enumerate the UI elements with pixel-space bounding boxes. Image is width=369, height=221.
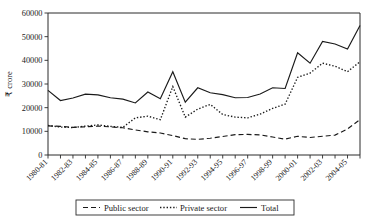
x-tick-label: 1990-91 bbox=[149, 158, 174, 183]
x-tick-label: 1984-85 bbox=[74, 158, 99, 183]
series-line-public-sector bbox=[48, 120, 360, 140]
chart-container: 0100002000030000400005000060000 1980-811… bbox=[0, 0, 369, 221]
y-axis-title: ₹ crore bbox=[4, 71, 14, 97]
x-tick-label: 1994-95 bbox=[199, 158, 224, 183]
x-tick-label: 1980-81 bbox=[24, 158, 49, 183]
y-tick-label: 30000 bbox=[22, 80, 43, 89]
x-tick-label: 2002-03 bbox=[299, 158, 324, 183]
series-line-total bbox=[48, 26, 360, 103]
line-chart: 0100002000030000400005000060000 1980-811… bbox=[0, 0, 369, 221]
legend-label: Private sector bbox=[180, 203, 227, 213]
x-axis: 1980-811982-831984-851986-871988-891990-… bbox=[24, 155, 360, 183]
x-tick-label: 2004-05 bbox=[324, 158, 349, 183]
x-tick-label: 1992-93 bbox=[174, 158, 199, 183]
x-tick-label: 2000-01 bbox=[274, 158, 299, 183]
chart-legend[interactable]: Public sectorPrivate sectorTotal bbox=[76, 200, 294, 215]
x-tick-label: 1982-83 bbox=[49, 158, 74, 183]
series-lines bbox=[48, 26, 360, 140]
x-tick-label: 1996-97 bbox=[224, 158, 249, 183]
legend-label: Public sector bbox=[104, 203, 149, 213]
plot-frame bbox=[48, 13, 360, 155]
x-tick-label: 1988-89 bbox=[124, 158, 149, 183]
y-tick-label: 60000 bbox=[22, 9, 43, 18]
x-tick-label: 1998-99 bbox=[249, 158, 274, 183]
y-axis: 0100002000030000400005000060000 bbox=[22, 9, 48, 160]
y-axis-title-text: ₹ crore bbox=[4, 71, 14, 97]
y-tick-label: 50000 bbox=[22, 33, 43, 42]
x-tick-label: 1986-87 bbox=[99, 158, 124, 183]
y-tick-label: 10000 bbox=[22, 127, 43, 136]
y-tick-label: 20000 bbox=[22, 104, 43, 113]
y-tick-label: 40000 bbox=[22, 56, 43, 65]
legend-label: Total bbox=[261, 203, 279, 213]
